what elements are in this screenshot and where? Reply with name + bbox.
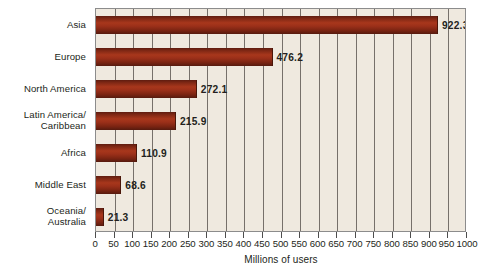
category-label-middle-east: Middle East (0, 179, 86, 190)
bar-africa (96, 144, 137, 162)
tick-label-750: 750 (365, 238, 381, 249)
bar-asia (96, 16, 438, 34)
category-label-north-america: North America (0, 83, 86, 94)
value-label-europe: 476.2 (277, 52, 304, 63)
tick-label-550: 550 (291, 238, 307, 249)
x-axis-title: Millions of users (95, 254, 467, 265)
value-label-north-america: 272.1 (201, 84, 228, 95)
tick-label-0: 0 (92, 238, 97, 249)
category-label-latin-america: Latin America/ Caribbean (0, 109, 86, 131)
tick-label-950: 950 (439, 238, 455, 249)
value-label-middle-east: 68.6 (125, 180, 146, 191)
gridline-900 (430, 9, 431, 231)
gridline-800 (393, 9, 394, 231)
tick-label-700: 700 (347, 238, 363, 249)
gridline-700 (356, 9, 357, 231)
tick-label-600: 600 (310, 238, 326, 249)
gridline-450 (263, 9, 264, 231)
value-label-asia: 922.3 (442, 20, 466, 31)
category-label-africa: Africa (0, 147, 86, 158)
tick-label-250: 250 (180, 238, 196, 249)
tick-label-350: 350 (217, 238, 233, 249)
bar-north-america (96, 80, 197, 98)
value-label-latin-america: 215.9 (180, 116, 207, 127)
gridline-950 (448, 9, 449, 231)
value-label-oceania: 21.3 (108, 212, 129, 223)
bar-oceania (96, 208, 104, 226)
tick-label-800: 800 (384, 238, 400, 249)
gridline-750 (374, 9, 375, 231)
tick-label-900: 900 (421, 238, 437, 249)
bar-middle-east (96, 176, 121, 194)
category-label-europe: Europe (0, 51, 86, 62)
category-label-asia: Asia (0, 19, 86, 30)
value-label-africa: 110.9 (141, 148, 167, 159)
tick-label-50: 50 (108, 238, 118, 249)
bar-latin-america (96, 112, 176, 130)
plot-area: 922.3 476.2 272.1 215.9 110.9 68.6 21.3 (95, 8, 466, 232)
category-axis-labels: Asia Europe North America Latin America/… (0, 8, 86, 232)
gridline-300 (207, 9, 208, 231)
gridline-850 (411, 9, 412, 231)
bar-europe (96, 48, 273, 66)
gridline-500 (282, 9, 283, 231)
gridline-550 (300, 9, 301, 231)
gridline-350 (226, 9, 227, 231)
tick-label-100: 100 (124, 238, 140, 249)
gridline-600 (319, 9, 320, 231)
tick-label-1000: 1000 (457, 238, 478, 249)
tick-label-150: 150 (143, 238, 159, 249)
tick-label-850: 850 (402, 238, 418, 249)
tick-label-300: 300 (198, 238, 214, 249)
tick-label-500: 500 (273, 238, 289, 249)
gridline-650 (337, 9, 338, 231)
tick-label-200: 200 (161, 238, 177, 249)
tick-label-650: 650 (328, 238, 344, 249)
tick-label-450: 450 (254, 238, 270, 249)
tick-label-400: 400 (236, 238, 252, 249)
gridline-400 (244, 9, 245, 231)
bar-chart: Asia Europe North America Latin America/… (0, 0, 483, 277)
category-label-oceania: Oceania/ Australia (0, 205, 86, 227)
